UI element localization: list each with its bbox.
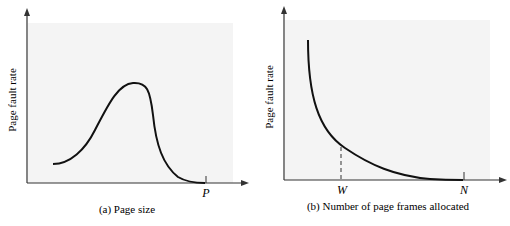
chart-page-frames: W N Page fault rate (b) Number of page f… [263, 10, 503, 213]
figure: P Page fault rate (a) Page size W N Page… [0, 0, 510, 226]
w-tick-label: W [337, 183, 348, 197]
plot-area [285, 20, 490, 180]
caption: (b) Number of page frames allocated [307, 200, 470, 213]
n-tick-label: N [459, 183, 469, 197]
plot-area [28, 23, 233, 183]
y-axis-label: Page fault rate [263, 65, 275, 129]
caption: (a) Page size [99, 203, 155, 216]
chart-page-size: P Page fault rate (a) Page size [6, 12, 245, 216]
p-tick-label: P [201, 186, 210, 200]
y-axis-label: Page fault rate [6, 68, 18, 132]
